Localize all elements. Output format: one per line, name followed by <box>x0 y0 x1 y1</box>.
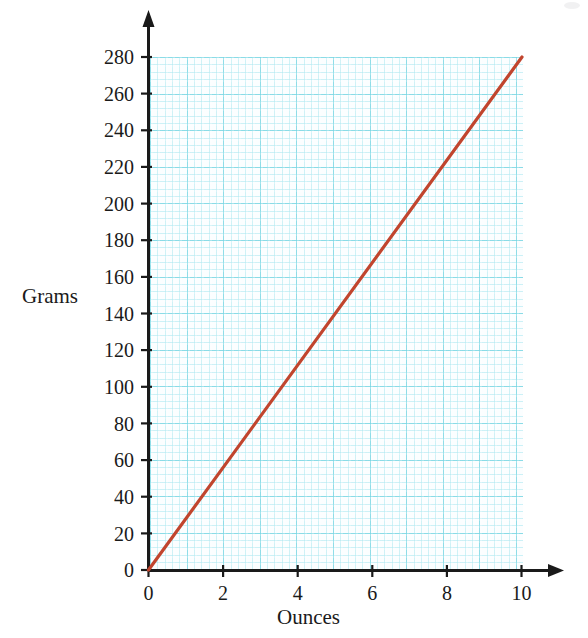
page-corner-artifact <box>564 2 580 9</box>
ytick-label: 280 <box>56 47 134 67</box>
ytick-label: 60 <box>56 450 134 470</box>
ytick-label: 0 <box>56 560 134 580</box>
xtick-label: 10 <box>502 583 542 603</box>
ytick-label: 20 <box>56 524 134 544</box>
xtick-label: 8 <box>427 583 467 603</box>
ytick-label: 200 <box>56 194 134 214</box>
ytick-label: 180 <box>56 230 134 250</box>
xtick-label: 4 <box>278 583 318 603</box>
x-axis-title: Ounces <box>277 607 340 628</box>
y-axis-title: Grams <box>22 286 78 307</box>
xtick-label: 6 <box>352 583 392 603</box>
chart-container: 280 260 240 220 200 180 160 140 120 100 … <box>0 0 588 638</box>
ytick-label: 40 <box>56 487 134 507</box>
xtick-label: 2 <box>203 583 243 603</box>
ytick-label: 240 <box>56 120 134 140</box>
xtick-label: 0 <box>129 583 169 603</box>
ytick-label: 100 <box>56 377 134 397</box>
ytick-label: 220 <box>56 157 134 177</box>
graph-paper-grid <box>150 57 523 570</box>
ytick-label: 80 <box>56 414 134 434</box>
ytick-label: 120 <box>56 340 134 360</box>
ytick-label: 260 <box>56 84 134 104</box>
